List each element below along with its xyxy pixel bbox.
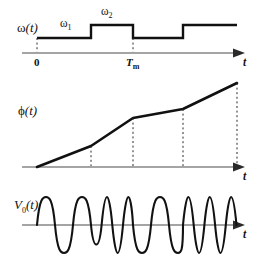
omega-symbol: ω <box>17 20 26 35</box>
omega-tick-tm: Tm <box>126 57 139 71</box>
tm-subscript: m <box>133 62 140 71</box>
phi-symbol: ϕ <box>18 103 25 118</box>
omega2-subscript: 2 <box>109 11 113 20</box>
phi-label: ϕ(t) <box>18 104 37 117</box>
v0-symbol: V <box>14 197 22 212</box>
omega-arg: (t) <box>26 20 38 35</box>
phi-panel <box>0 80 260 180</box>
v0-arg: (t) <box>26 197 38 212</box>
omega-y-axis-label: ω(t) <box>17 21 38 34</box>
fsk-waveform-figure: ω(t) ω1 ω2 0 Tm t ϕ(t) t V0( <box>0 0 260 262</box>
omega1-subscript: 1 <box>68 23 72 32</box>
omega2-symbol: ω <box>101 5 109 17</box>
omega-x-axis-label: t <box>243 57 246 69</box>
phi-phase-curve <box>37 83 237 167</box>
v0-panel <box>0 180 260 262</box>
omega1-segment-label: ω1 <box>60 18 72 32</box>
v0-x-axis-label: t <box>243 229 246 241</box>
omega2-segment-label: ω2 <box>101 6 113 20</box>
omega1-symbol: ω <box>60 17 68 29</box>
phi-arg: (t) <box>25 103 37 118</box>
omega-tick-zero: 0 <box>34 57 40 68</box>
tm-symbol: T <box>126 56 133 68</box>
v0-y-axis-label: V0(t) <box>14 198 38 215</box>
